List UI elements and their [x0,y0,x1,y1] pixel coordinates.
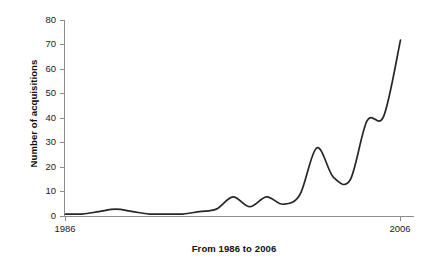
chart-figure: Number of acquisitions 80 70 60 50 40 30… [0,0,428,266]
plot-area [0,0,428,266]
x-axis-spine-group [65,217,415,222]
data-series-line [66,40,401,214]
y-axis-spine-group [60,20,65,217]
